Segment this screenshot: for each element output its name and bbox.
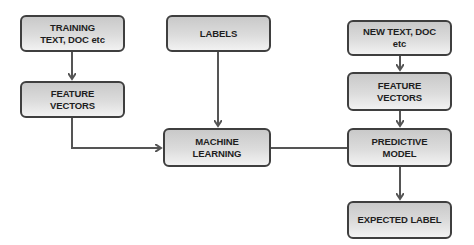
- node-label: LEARNING: [193, 148, 242, 160]
- ml-flow-diagram: TRAINING TEXT, DOC etc FEATURE VECTORS L…: [0, 0, 474, 245]
- node-new-text: NEW TEXT, DOC etc: [347, 20, 452, 56]
- node-label: NEW TEXT, DOC: [363, 26, 436, 38]
- node-label: MACHINE: [195, 136, 239, 148]
- node-label: TEXT, DOC etc: [40, 34, 105, 46]
- node-feature-vectors-training: FEATURE VECTORS: [20, 81, 125, 118]
- node-label: EXPECTED LABEL: [357, 214, 441, 226]
- node-labels: LABELS: [166, 15, 271, 52]
- node-machine-learning: MACHINE LEARNING: [163, 128, 271, 167]
- node-predictive-model: PREDICTIVE MODEL: [347, 128, 452, 167]
- node-training-text: TRAINING TEXT, DOC etc: [20, 15, 125, 52]
- node-label: FEATURE: [378, 80, 421, 92]
- node-label: TRAINING: [50, 22, 95, 34]
- node-expected-label: EXPECTED LABEL: [347, 201, 452, 239]
- node-label: LABELS: [200, 28, 237, 40]
- node-label: PREDICTIVE: [371, 136, 427, 148]
- node-label: VECTORS: [50, 100, 95, 112]
- node-label: etc: [393, 38, 406, 50]
- edge-feature-to-ml: [72, 118, 161, 148]
- node-feature-vectors-new: FEATURE VECTORS: [347, 72, 452, 111]
- node-label: VECTORS: [377, 92, 422, 104]
- node-label: MODEL: [383, 148, 417, 160]
- node-label: FEATURE: [51, 88, 94, 100]
